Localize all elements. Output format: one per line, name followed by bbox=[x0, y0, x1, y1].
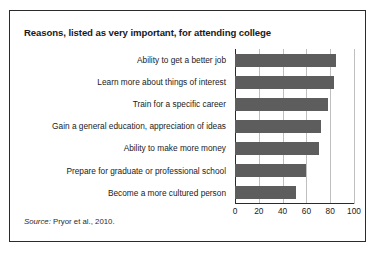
bar-row bbox=[235, 164, 354, 177]
bar bbox=[235, 98, 328, 111]
category-axis-labels: Ability to get a better job Learn more a… bbox=[24, 49, 230, 204]
chart-title: Reasons, listed as very important, for a… bbox=[24, 27, 271, 38]
category-label: Learn more about things of interest bbox=[24, 78, 230, 86]
source-text: Pryor et al., 2010. bbox=[51, 217, 115, 226]
x-tick-label: 40 bbox=[278, 206, 287, 216]
bar-row bbox=[235, 76, 354, 89]
x-tick-label: 0 bbox=[233, 206, 238, 216]
bar-row bbox=[235, 186, 354, 199]
x-tick-label: 100 bbox=[347, 206, 361, 216]
x-axis-line bbox=[235, 203, 354, 204]
x-tick-label: 80 bbox=[326, 206, 335, 216]
bars-list bbox=[235, 49, 354, 204]
bar bbox=[235, 142, 319, 155]
category-label: Become a more cultured person bbox=[24, 189, 230, 197]
bar-row bbox=[235, 98, 354, 111]
bar bbox=[235, 76, 334, 89]
bar bbox=[235, 54, 336, 67]
x-axis-tick-labels: 020406080100 bbox=[235, 206, 354, 220]
bar bbox=[235, 120, 321, 133]
source-note: Source: Pryor et al., 2010. bbox=[24, 217, 115, 226]
plot-area: Ability to get a better job Learn more a… bbox=[24, 49, 354, 209]
x-tick-label: 60 bbox=[302, 206, 311, 216]
category-label: Ability to get a better job bbox=[24, 56, 230, 64]
source-label: Source: bbox=[24, 217, 51, 226]
category-label: Gain a general education, appreciation o… bbox=[24, 122, 230, 130]
category-label: Prepare for graduate or professional sch… bbox=[24, 167, 230, 175]
category-label: Ability to make more money bbox=[24, 144, 230, 152]
bar bbox=[235, 164, 306, 177]
bars-region bbox=[235, 49, 354, 204]
x-tick-label: 20 bbox=[254, 206, 263, 216]
figure-frame: Reasons, listed as very important, for a… bbox=[9, 10, 366, 242]
gridline bbox=[354, 49, 355, 204]
category-label: Train for a specific career bbox=[24, 100, 230, 108]
bar-row bbox=[235, 120, 354, 133]
bar-row bbox=[235, 54, 354, 67]
bar bbox=[235, 186, 296, 199]
bar-row bbox=[235, 142, 354, 155]
